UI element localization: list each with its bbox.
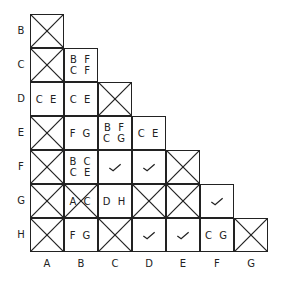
col-label-c: C [108, 258, 122, 269]
cross-icon [99, 219, 131, 251]
cell-c-a [30, 48, 64, 82]
cell-h-e [166, 218, 200, 252]
cell-g-c: D H [98, 184, 132, 218]
col-label-b: B [74, 258, 88, 269]
col-label-d: D [142, 258, 156, 269]
cell-g-f [200, 184, 234, 218]
cross-icon [235, 219, 267, 251]
row-label-g: G [14, 195, 28, 206]
cross-icon [31, 49, 63, 81]
cell-d-b: C E [64, 82, 98, 116]
row-label-c: C [14, 59, 28, 70]
col-label-e: E [176, 258, 190, 269]
checkmark-icon [133, 219, 165, 251]
row-label-h: H [14, 229, 28, 240]
cell-f-c [98, 150, 132, 184]
cell-text: C F [70, 65, 92, 76]
cell-h-a [30, 218, 64, 252]
cell-text: C E [70, 167, 92, 178]
cell-e-d: C E [132, 116, 166, 150]
cell-text: B F [104, 122, 126, 133]
col-label-a: A [40, 258, 54, 269]
row-label-f: F [14, 161, 28, 172]
col-label-f: F [210, 258, 224, 269]
checkmark-icon [167, 219, 199, 251]
cell-h-c [98, 218, 132, 252]
cell-text: C E [70, 94, 92, 105]
cell-e-b: F G [64, 116, 98, 150]
cross-icon [31, 185, 63, 217]
row-label-b: B [14, 25, 28, 36]
checkmark-icon [133, 151, 165, 183]
cell-text: C G [205, 230, 229, 241]
cell-h-f: C G [200, 218, 234, 252]
cell-text: B F [70, 54, 92, 65]
cell-g-a [30, 184, 64, 218]
cell-g-d [132, 184, 166, 218]
cell-h-d [132, 218, 166, 252]
cell-f-d [132, 150, 166, 184]
cell-g-e [166, 184, 200, 218]
cell-text: D H [103, 196, 127, 207]
cell-c-b: B FC F [64, 48, 98, 82]
cross-icon [31, 219, 63, 251]
cross-icon [99, 83, 131, 115]
cross-icon [133, 185, 165, 217]
cell-h-b: F G [64, 218, 98, 252]
cell-text: C E [36, 94, 58, 105]
cell-f-b: B CC E [64, 150, 98, 184]
cell-f-e [166, 150, 200, 184]
cell-g-b: A C [64, 184, 98, 218]
row-label-e: E [14, 127, 28, 138]
cell-e-a [30, 116, 64, 150]
cell-text: F G [70, 128, 93, 139]
cell-text: F G [70, 230, 93, 241]
row-label-d: D [14, 93, 28, 104]
cell-f-a [30, 150, 64, 184]
col-label-g: G [244, 258, 258, 269]
cell-text: C E [138, 128, 160, 139]
cell-text: C G [103, 133, 127, 144]
cross-icon [31, 117, 63, 149]
cell-text: A C [69, 196, 92, 207]
cell-text: B C [69, 156, 92, 167]
cross-icon [167, 151, 199, 183]
cross-icon [167, 185, 199, 217]
cell-h-g [234, 218, 268, 252]
checkmark-icon [99, 151, 131, 183]
cross-icon [31, 151, 63, 183]
cell-e-c: B FC G [98, 116, 132, 150]
cell-d-a: C E [30, 82, 64, 116]
cell-d-c [98, 82, 132, 116]
cell-b-a [30, 14, 64, 48]
cross-icon [31, 15, 63, 47]
checkmark-icon [201, 185, 233, 217]
